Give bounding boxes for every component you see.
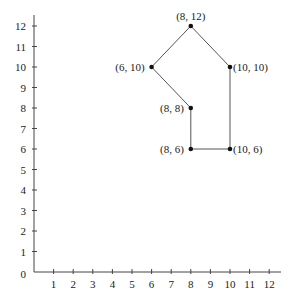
- x-tick-label: 1: [51, 278, 57, 290]
- x-tick-label: 8: [188, 278, 194, 290]
- x-tick-label: 11: [244, 278, 255, 290]
- x-tick-label: 4: [110, 278, 116, 290]
- y-tick-label: 12: [15, 20, 26, 32]
- x-tick-label: 2: [70, 278, 76, 290]
- data-point: [189, 24, 194, 29]
- y-tick-label: 6: [21, 143, 27, 155]
- x-tick-label: 9: [208, 278, 214, 290]
- point-label: (6, 10): [115, 61, 145, 74]
- polygon-outline: [152, 26, 230, 149]
- x-tick-label: 10: [225, 278, 237, 290]
- point-label: (8, 6): [160, 143, 184, 156]
- y-tick-label: 1: [21, 246, 27, 258]
- y-tick-label: 9: [21, 82, 27, 94]
- y-tick-label: 3: [21, 205, 27, 217]
- polygon-shape: [152, 26, 230, 149]
- point-label: (8, 8): [160, 102, 184, 115]
- data-point: [228, 147, 233, 152]
- y-tick-label: 10: [15, 61, 27, 73]
- y-tick-label: 11: [15, 41, 26, 53]
- data-point: [189, 147, 194, 152]
- x-tick-label: 6: [149, 278, 155, 290]
- y-tick-label: 7: [21, 123, 27, 135]
- y-tick-label: 0: [21, 268, 27, 280]
- x-tick-label: 12: [264, 278, 275, 290]
- data-point: [149, 65, 154, 70]
- point-label: (8, 12): [176, 10, 206, 23]
- point-label: (10, 6): [233, 143, 263, 156]
- point-label: (10, 10): [233, 61, 268, 74]
- coordinate-plane-chart: 0123456789101112 123456789101112 (8, 12)…: [0, 0, 294, 303]
- y-tick-label: 2: [21, 225, 27, 237]
- x-tick-label: 3: [90, 278, 96, 290]
- x-tick-label: 7: [168, 278, 174, 290]
- y-tick-label: 8: [21, 102, 27, 114]
- y-tick-label: 5: [21, 164, 27, 176]
- data-point: [189, 106, 194, 111]
- x-tick-label: 5: [129, 278, 135, 290]
- data-points: (8, 12)(10, 10)(10, 6)(8, 6)(8, 8)(6, 10…: [115, 10, 268, 156]
- data-point: [228, 65, 233, 70]
- y-tick-label: 4: [21, 184, 27, 196]
